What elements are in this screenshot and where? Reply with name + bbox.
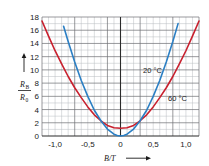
y-tick-0: 0 bbox=[35, 132, 40, 141]
x-tick-minus1: -1,0 bbox=[48, 140, 62, 149]
y-tick-6: 6 bbox=[35, 92, 40, 101]
y-tick-8: 8 bbox=[35, 79, 40, 88]
y-tick-12: 12 bbox=[30, 53, 39, 62]
annotation-60c: 60 °C bbox=[168, 94, 187, 103]
x-tick-minus05: -0,5 bbox=[81, 140, 95, 149]
y-axis-denominator-sub: 0 bbox=[25, 97, 28, 103]
y-tick-10: 10 bbox=[30, 66, 39, 75]
y-tick-4: 4 bbox=[35, 106, 40, 115]
y-tick-18: 18 bbox=[30, 13, 39, 22]
chart-svg: 18 16 14 12 10 8 6 4 2 0 -1,0 -0,5 0 0,5… bbox=[0, 0, 209, 166]
magnetoresistance-chart: 18 16 14 12 10 8 6 4 2 0 -1,0 -0,5 0 0,5… bbox=[0, 0, 209, 166]
y-tick-2: 2 bbox=[35, 119, 40, 128]
y-axis-denominator: R bbox=[19, 93, 25, 102]
x-tick-1: 1,0 bbox=[180, 140, 192, 149]
x-tick-05: 0,5 bbox=[148, 140, 160, 149]
x-tick-0: 0 bbox=[118, 140, 123, 149]
y-axis-numerator-sub: B bbox=[25, 84, 29, 90]
x-axis-title: B/T bbox=[104, 154, 116, 163]
y-tick-14: 14 bbox=[30, 39, 39, 48]
annotation-20c: 20 °C bbox=[143, 66, 162, 75]
y-axis-numerator: R bbox=[19, 80, 25, 89]
y-tick-16: 16 bbox=[30, 26, 39, 35]
